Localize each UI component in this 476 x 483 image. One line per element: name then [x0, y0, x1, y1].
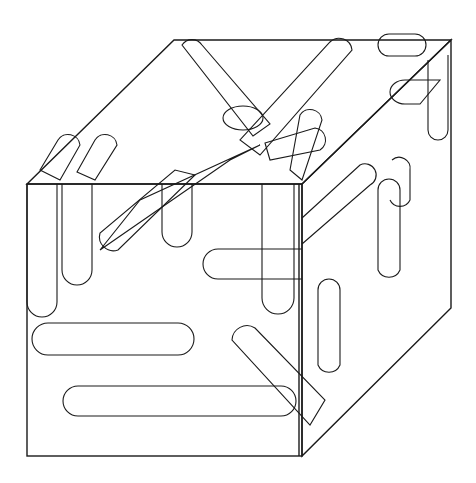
cube-outline: [27, 40, 451, 456]
found-word-loops: [27, 34, 448, 425]
word-search-cube: [0, 0, 476, 483]
